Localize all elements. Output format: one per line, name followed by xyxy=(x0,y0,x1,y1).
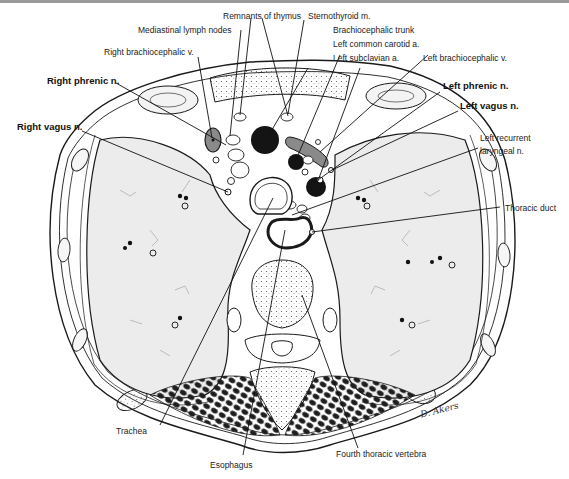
label-remnants-of-thymus: Remnants of thymus xyxy=(223,11,301,21)
label-left-common-carotid: Left common carotid a. xyxy=(333,39,419,49)
right-lung xyxy=(87,137,250,398)
label-left-subclavian: Left subclavian a. xyxy=(333,53,399,63)
label-mediastinal-lymph-nodes: Mediastinal lymph nodes xyxy=(138,25,232,35)
thorax-cross-section-illustration xyxy=(0,0,569,479)
esophagus xyxy=(268,218,312,248)
label-right-vagus: Right vagus n. xyxy=(17,122,82,132)
label-esophagus: Esophagus xyxy=(210,460,253,470)
left-lung xyxy=(322,133,483,398)
label-left-recurrent-line1: Left recurrent xyxy=(480,133,531,143)
label-left-phrenic: Left phrenic n. xyxy=(443,81,508,91)
label-sternothyroid: Sternothyroid m. xyxy=(308,11,370,21)
label-left-brachiocephalic-v: Left brachiocephalic v. xyxy=(423,53,507,63)
label-thoracic-duct: Thoracic duct xyxy=(505,203,556,213)
label-right-brachiocephalic-v: Right brachiocephalic v. xyxy=(104,47,194,57)
left-common-carotid xyxy=(288,154,304,170)
label-left-vagus: Left vagus n. xyxy=(460,101,519,111)
label-right-phrenic: Right phrenic n. xyxy=(47,76,119,86)
label-brachiocephalic-trunk: Brachiocephalic trunk xyxy=(333,25,414,35)
label-fourth-thoracic-vertebra: Fourth thoracic vertebra xyxy=(336,449,426,459)
label-trachea: Trachea xyxy=(116,426,147,436)
label-left-recurrent-line2: laryngeal n. xyxy=(480,146,524,156)
brachiocephalic-trunk xyxy=(251,126,279,154)
